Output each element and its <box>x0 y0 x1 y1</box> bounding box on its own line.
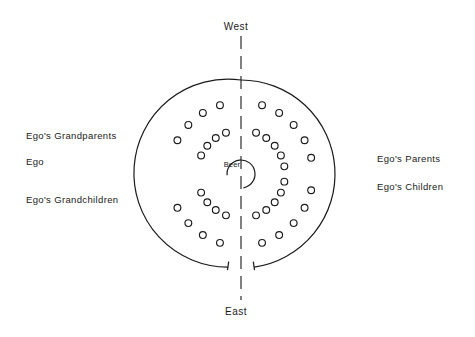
seat-marker-inner-ring-17 <box>198 152 205 159</box>
seat-marker-inner-ring-15 <box>212 135 219 142</box>
label-ego: Ego <box>26 156 44 167</box>
label-egos-children: Ego's Children <box>377 181 443 192</box>
seat-marker-inner-ring-3 <box>263 207 270 214</box>
seat-marker-outer-ring-14 <box>217 102 224 109</box>
seat-marker-inner-ring-16 <box>204 142 211 149</box>
seat-marker-outer-ring-7 <box>185 220 192 227</box>
seat-marker-outer-ring-3 <box>276 232 283 239</box>
label-egos-grandparents: Ego's Grandparents <box>26 130 117 141</box>
seat-marker-inner-ring-12 <box>263 135 270 142</box>
seating-circle-arc-west <box>134 79 241 267</box>
seat-marker-outer-ring-8 <box>174 204 181 211</box>
label-egos-grandchildren: Ego's Grandchildren <box>26 194 118 205</box>
seat-marker-inner-ring-8 <box>198 189 205 196</box>
seat-marker-inner-ring-14 <box>223 129 230 136</box>
seat-marker-outer-ring-12 <box>276 110 283 117</box>
seat-marker-inner-ring-2 <box>271 199 278 206</box>
seat-marker-outer-ring-0 <box>308 187 315 194</box>
label-egos-parents: Ego's Parents <box>377 153 440 164</box>
seat-marker-outer-ring-13 <box>259 102 266 109</box>
seat-marker-inner-ring-6 <box>212 207 219 214</box>
center-label-beer: Beer <box>224 160 241 169</box>
seat-marker-outer-ring-4 <box>259 239 266 246</box>
seat-marker-outer-ring-10 <box>301 137 308 144</box>
seat-marker-inner-ring-0 <box>281 178 288 185</box>
seat-marker-outer-ring-2 <box>290 220 297 227</box>
seat-marker-outer-ring-17 <box>174 137 181 144</box>
seat-marker-outer-ring-1 <box>301 204 308 211</box>
compass-label-east: East <box>225 306 247 317</box>
seat-marker-inner-ring-1 <box>277 189 284 196</box>
seat-marker-inner-ring-7 <box>204 199 211 206</box>
seat-marker-outer-ring-15 <box>199 110 206 117</box>
seat-marker-inner-ring-9 <box>281 163 288 170</box>
seat-marker-inner-ring-13 <box>253 129 260 136</box>
seat-marker-outer-ring-6 <box>199 232 206 239</box>
diagram-canvas: West East Ego's Grandparents Ego Ego's G… <box>0 0 475 337</box>
seat-marker-inner-ring-4 <box>253 212 260 219</box>
compass-label-west: West <box>224 21 249 32</box>
seat-marker-outer-ring-11 <box>290 122 297 129</box>
arc-terminator-tick-east <box>253 262 254 270</box>
arc-terminator-tick-west <box>227 262 228 270</box>
seat-marker-inner-ring-5 <box>223 212 230 219</box>
seat-marker-outer-ring-5 <box>217 239 224 246</box>
seat-marker-outer-ring-16 <box>185 122 192 129</box>
seat-marker-inner-ring-10 <box>277 152 284 159</box>
seat-marker-inner-ring-11 <box>271 142 278 149</box>
seat-marker-outer-ring-9 <box>308 154 315 161</box>
